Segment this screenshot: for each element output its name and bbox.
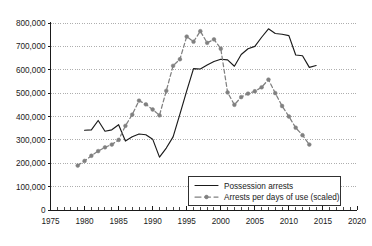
series-marker-1 xyxy=(198,29,202,33)
x-axis-tick-label: 2015 xyxy=(314,217,333,226)
legend-label-0: Possession arrests xyxy=(224,182,293,191)
series-marker-1 xyxy=(83,159,87,163)
series-marker-1 xyxy=(226,91,230,95)
y-axis xyxy=(48,22,51,210)
series-marker-1 xyxy=(158,113,162,117)
series-marker-1 xyxy=(219,47,223,51)
series-marker-1 xyxy=(260,85,264,89)
x-axis-tick-label: 2010 xyxy=(280,217,299,226)
y-axis-tick-label: 400,000 xyxy=(16,113,46,122)
series-marker-1 xyxy=(103,145,107,149)
y-axis-tick-label: 500,000 xyxy=(16,89,46,98)
y-axis-tick-label: 800,000 xyxy=(16,19,46,28)
series-marker-1 xyxy=(239,95,243,99)
x-axis-tick-label: 1995 xyxy=(178,217,197,226)
series-marker-1 xyxy=(110,143,114,147)
y-axis-tick-label: 100,000 xyxy=(16,183,46,192)
series-marker-1 xyxy=(205,41,209,45)
series-marker-1 xyxy=(89,154,93,158)
series-marker-1 xyxy=(124,124,128,128)
legend-label-1: Arrests per days of use (scaled) xyxy=(224,193,340,202)
series-marker-1 xyxy=(267,78,271,82)
data-series-group xyxy=(76,29,316,168)
x-axis-tick-labels: 1975198019851990199520002005201020152020 xyxy=(41,217,366,226)
y-axis-tick-label: 200,000 xyxy=(16,159,46,168)
series-marker-1 xyxy=(246,92,250,96)
series-marker-1 xyxy=(280,104,284,108)
legend-marker-1 xyxy=(205,195,209,199)
series-marker-1 xyxy=(192,40,196,44)
series-marker-1 xyxy=(185,35,189,39)
x-axis-tick-label: 2020 xyxy=(348,217,367,226)
y-axis-tick-labels: 0100,000200,000300,000400,000500,000600,… xyxy=(16,19,46,215)
series-marker-1 xyxy=(171,64,175,68)
series-marker-1 xyxy=(253,89,257,93)
series-marker-1 xyxy=(294,126,298,130)
y-axis-tick-label: 700,000 xyxy=(16,42,46,51)
x-axis-tick-label: 1975 xyxy=(41,217,60,226)
series-marker-1 xyxy=(178,57,182,61)
x-axis-tick-label: 1980 xyxy=(75,217,94,226)
series-marker-1 xyxy=(212,37,216,41)
chart-container: 0100,000200,000300,000400,000500,000600,… xyxy=(0,0,372,246)
line-chart: 0100,000200,000300,000400,000500,000600,… xyxy=(0,0,372,246)
x-axis-tick-label: 2005 xyxy=(246,217,265,226)
series-marker-1 xyxy=(76,164,80,168)
series-marker-1 xyxy=(96,149,100,153)
series-marker-1 xyxy=(287,115,291,119)
x-axis-tick-label: 1990 xyxy=(144,217,163,226)
x-axis-tick-label: 2000 xyxy=(212,217,231,226)
series-marker-1 xyxy=(233,103,237,107)
y-axis-tick-label: 300,000 xyxy=(16,136,46,145)
series-marker-1 xyxy=(130,113,134,117)
series-marker-1 xyxy=(151,108,155,112)
series-marker-1 xyxy=(144,102,148,106)
series-marker-1 xyxy=(307,143,311,147)
grid-lines xyxy=(51,23,358,187)
series-marker-1 xyxy=(164,89,168,93)
y-axis-tick-label: 0 xyxy=(41,206,46,215)
series-marker-1 xyxy=(137,99,141,103)
series-marker-1 xyxy=(301,133,305,137)
series-marker-1 xyxy=(117,138,121,142)
x-axis-tick-label: 1985 xyxy=(110,217,129,226)
y-axis-tick-label: 600,000 xyxy=(16,66,46,75)
x-axis xyxy=(51,206,358,211)
series-marker-1 xyxy=(273,91,277,95)
chart-legend: Possession arrestsArrests per days of us… xyxy=(188,176,340,205)
